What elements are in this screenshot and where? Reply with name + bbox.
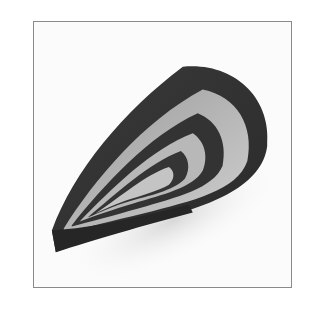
quilled-teardrop-image	[34, 22, 291, 287]
photo-frame: Quilled teardrop	[33, 21, 292, 288]
